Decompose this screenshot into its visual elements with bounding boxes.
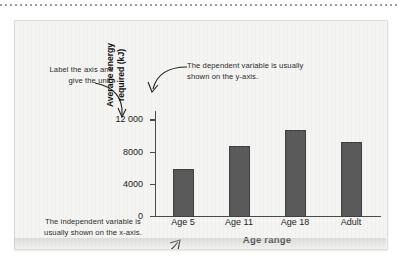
bar-chart: Average energy required (kJ) 04000800012…	[111, 103, 383, 243]
y-tick-label: 0	[138, 211, 143, 221]
bar	[173, 169, 194, 217]
y-tick-label: 12 000	[115, 114, 143, 124]
x-category-label: Age 11	[211, 217, 267, 231]
annotation-dependent-variable: The dependent variable is usually shown …	[187, 61, 315, 82]
bar-series	[155, 111, 379, 217]
bar-slot	[323, 111, 379, 217]
arrow-to-y-axis-icon	[145, 65, 189, 97]
bar	[341, 142, 362, 217]
x-axis-category-labels: Age 5Age 11Age 18Adult	[155, 217, 379, 231]
bar	[285, 130, 306, 217]
bar	[229, 146, 250, 217]
x-category-label: Adult	[323, 217, 379, 231]
y-tick-label: 8000	[123, 147, 143, 157]
plot-area: 04000800012 000	[155, 111, 379, 217]
dotted-rule	[0, 4, 399, 6]
y-axis-title: Average energy required (kJ)	[105, 29, 127, 121]
x-category-label: Age 5	[155, 217, 211, 231]
y-tick-label: 4000	[123, 179, 143, 189]
figure-root: Label the axis and give the unit. The de…	[0, 0, 399, 265]
page-bottom-edge	[14, 238, 386, 250]
bar-slot	[267, 111, 323, 217]
annotation-label-axis-unit: Label the axis and give the unit.	[37, 65, 113, 86]
x-category-label: Age 18	[267, 217, 323, 231]
bar-slot	[211, 111, 267, 217]
scanned-page-panel: Label the axis and give the unit. The de…	[14, 20, 388, 250]
bar-slot	[155, 111, 211, 217]
